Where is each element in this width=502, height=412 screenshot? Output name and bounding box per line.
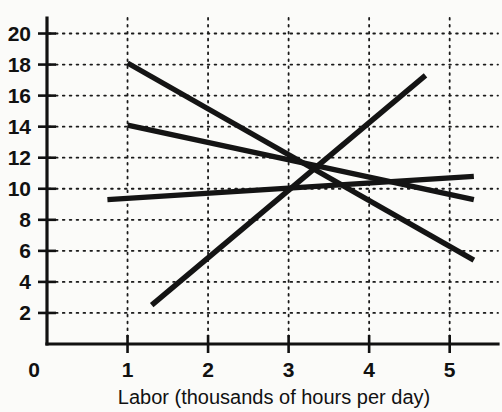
y-tick-label: 8 (19, 208, 31, 231)
chart-container: 2468101214161820 012345 Labor (thousands… (0, 0, 502, 412)
x-tick-label: 2 (202, 358, 214, 381)
y-tick-label: 2 (19, 301, 31, 324)
y-tick-label: 12 (8, 146, 31, 169)
x-tick-label: 0 (28, 358, 40, 381)
y-tick-label: 18 (8, 53, 32, 76)
x-tick-label: 3 (283, 358, 295, 381)
data-series-group (107, 63, 473, 305)
y-tick-label: 16 (8, 84, 31, 107)
y-tick-label: 6 (19, 239, 31, 262)
x-tick-label: 4 (363, 358, 375, 381)
horizontal-gridlines (49, 34, 498, 313)
y-tick-label: 14 (8, 115, 32, 138)
y-axis-tick-labels: 2468101214161820 (8, 22, 32, 324)
line-chart: 2468101214161820 012345 Labor (thousands… (0, 0, 502, 412)
x-tick-label: 1 (122, 358, 134, 381)
x-axis-tick-labels: 012345 (28, 358, 456, 381)
y-tick-label: 10 (8, 177, 31, 200)
x-axis-title: Labor (thousands of hours per day) (118, 386, 430, 408)
y-tick-label: 20 (8, 22, 31, 45)
x-tick-label: 5 (444, 358, 456, 381)
y-tick-label: 4 (19, 270, 31, 293)
